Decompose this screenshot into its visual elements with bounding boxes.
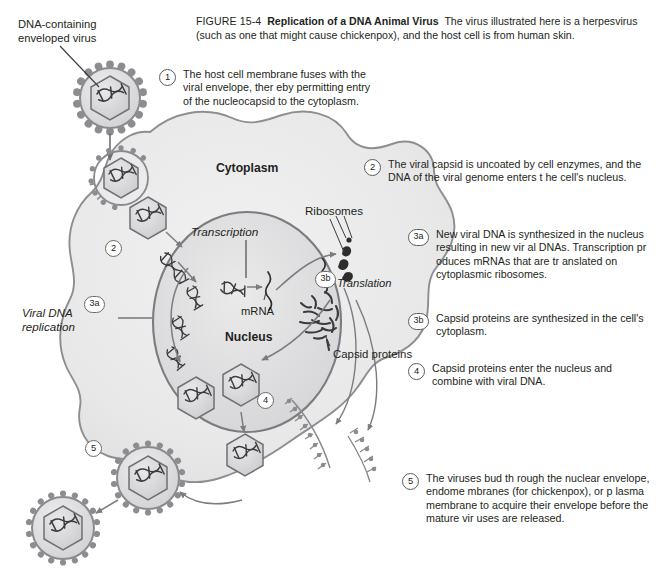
virion-released [25,490,100,565]
step-5: 5 The viruses bud th rough the nuclear e… [402,472,652,526]
diagram-marker-3a: 3a [84,296,105,313]
label-nucleus: Nucleus [225,331,272,345]
step-3b-text: Capsid proteins are synthesized in the c… [436,312,652,339]
step-2-text: The viral capsid is uncoated by cell enz… [388,158,646,185]
label-mrna: mRNA [241,305,274,319]
step-4: 4 Capsid proteins enter the nucleus and … [408,362,652,389]
step-3a-marker: 3a [408,229,429,246]
diagram-marker-5: 5 [85,440,102,457]
label-transcription: Transcription [191,226,258,240]
figure-number: FIGURE 15-4 [196,15,261,27]
step-1-text: The host cell membrane fuses with the vi… [183,68,375,108]
label-enveloped-virus: DNA-containing enveloped virus [18,18,138,45]
label-translation: Translation [337,277,392,291]
step-2: 2 The viral capsid is uncoated by cell e… [364,158,646,185]
step-1-marker: 1 [159,69,176,86]
step-2-marker: 2 [364,159,381,176]
label-ribosomes: Ribosomes [305,204,363,218]
step-3a: 3a New viral DNA is synthesized in the n… [408,228,652,282]
step-4-text: Capsid proteins enter the nucleus and co… [432,362,652,389]
figure-container: FIGURE 15-4 Replication of a DNA Animal … [0,0,660,582]
step-5-text: The viruses bud th rough the nuclear env… [426,472,652,526]
step-3b: 3b Capsid proteins are synthesized in th… [408,312,652,339]
diagram-marker-3b: 3b [315,271,336,288]
figure-title: Replication of a DNA Animal Virus [267,15,439,27]
label-capsid-proteins: Capsid proteins [333,348,412,362]
diagram-marker-2: 2 [105,240,122,257]
step-3b-marker: 3b [408,313,429,330]
label-viral-dna-replication: Viral DNA replication [22,306,118,333]
label-cytoplasm: Cytoplasm [216,162,278,176]
step-1: 1 The host cell membrane fuses with the … [159,68,375,108]
step-4-marker: 4 [408,363,425,380]
step-3a-text: New viral DNA is synthesized in the nucl… [436,228,652,282]
figure-caption: FIGURE 15-4 Replication of a DNA Animal … [196,14,648,42]
diagram-marker-4: 4 [257,392,274,409]
step-5-marker: 5 [402,473,419,490]
